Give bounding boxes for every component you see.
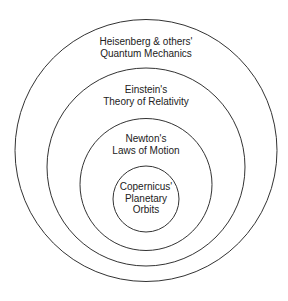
label-line: Copernicus' [66, 181, 226, 193]
label-laws-of-motion: Newton's Laws of Motion [66, 133, 226, 156]
label-line: Quantum Mechanics [66, 48, 226, 60]
label-line: Planetary [66, 193, 226, 205]
label-line: Newton's [66, 133, 226, 145]
label-line: Heisenberg & others' [66, 36, 226, 48]
label-line: Laws of Motion [66, 145, 226, 157]
label-line: Einstein's [66, 84, 226, 96]
label-relativity: Einstein's Theory of Relativity [66, 84, 226, 107]
label-line: Theory of Relativity [66, 96, 226, 108]
label-line: Orbits [66, 204, 226, 216]
label-planetary-orbits: Copernicus' Planetary Orbits [66, 181, 226, 216]
label-quantum-mechanics: Heisenberg & others' Quantum Mechanics [66, 36, 226, 59]
